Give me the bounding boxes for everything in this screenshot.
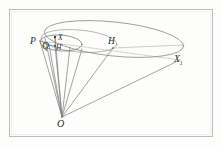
label-P: P — [29, 36, 36, 46]
generator-O-Q — [49, 45, 62, 117]
generator-O-inner-right — [62, 47, 70, 117]
figure-container: P Q X H' H X1 O — [0, 0, 222, 146]
label-H: H — [107, 36, 116, 46]
point-X-marker — [54, 36, 56, 38]
label-H-prime: H' — [55, 43, 63, 52]
cone-drawing — [39, 15, 185, 117]
label-X: X — [57, 33, 63, 42]
label-X1-subscript: 1 — [180, 60, 183, 66]
label-O: O — [57, 118, 64, 129]
generator-O-Hprime — [55, 46, 62, 117]
figure-labels: P Q X H' H X1 O — [29, 33, 183, 129]
point-H-marker — [112, 47, 114, 49]
generator-O-X1 — [62, 60, 180, 117]
chord-H-rim — [113, 45, 184, 48]
page-border-inner-shadow — [12, 12, 211, 135]
geometry-figure: P Q X H' H X1 O — [0, 0, 222, 146]
label-X1: X1 — [173, 54, 183, 66]
generator-O-H — [62, 48, 113, 117]
generator-O-mid-right — [62, 49, 82, 117]
page-border — [10, 10, 213, 137]
label-Q: Q — [42, 41, 49, 51]
